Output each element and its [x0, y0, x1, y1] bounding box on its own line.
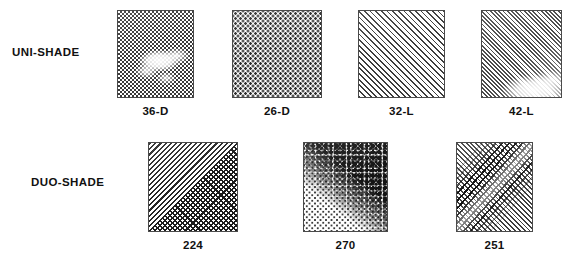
texture-dark-mottled-band — [304, 143, 387, 231]
swatch-cell-26-d: 26-D — [232, 10, 322, 98]
swatch-caption-26-d: 26-D — [232, 105, 322, 117]
swatch-box-270 — [303, 142, 388, 232]
highlight-wash-overlay — [482, 11, 561, 97]
swatch-cell-251: 251 — [456, 142, 533, 232]
row-label-duo-shade: DUO-SHADE — [31, 176, 104, 188]
swatch-cell-270: 270 — [303, 142, 388, 232]
row-label-uni-shade: UNI-SHADE — [12, 46, 80, 58]
swatch-box-32-l — [358, 10, 445, 98]
highlight-cloud-overlay — [118, 11, 193, 97]
swatch-caption-224: 224 — [148, 239, 238, 251]
swatch-cell-32-l: 32-L — [358, 10, 445, 98]
swatch-box-251 — [456, 142, 533, 232]
highlight-streak-overlay — [457, 143, 532, 231]
texture-dot-grid — [233, 11, 321, 97]
swatch-caption-36-d: 36-D — [117, 105, 194, 117]
swatch-box-42-l — [481, 10, 562, 98]
swatch-caption-42-l: 42-L — [481, 105, 562, 117]
swatch-caption-32-l: 32-L — [358, 105, 445, 117]
swatch-box-224 — [148, 142, 238, 232]
swatch-cell-36-d: 36-D — [117, 10, 194, 98]
swatch-cell-224: 224 — [148, 142, 238, 232]
texture-diagonal-lines — [359, 11, 444, 97]
swatch-box-26-d — [232, 10, 322, 98]
swatch-caption-251: 251 — [456, 239, 533, 251]
swatch-box-36-d — [117, 10, 194, 98]
shading-film-chart: UNI-SHADE 36-D 26-D 32-L 42-L DUO-SHADE — [0, 0, 562, 264]
swatch-cell-42-l: 42-L — [481, 10, 562, 98]
swatch-caption-270: 270 — [303, 239, 388, 251]
